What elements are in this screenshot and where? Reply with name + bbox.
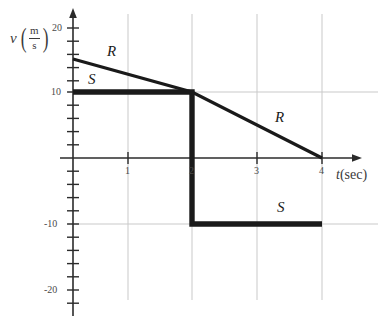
curve-label-R-right: R bbox=[275, 110, 284, 125]
y-tick-label-10: 10 bbox=[51, 87, 61, 97]
curve-label-R-left: R bbox=[107, 44, 116, 59]
x-tick-label-3: 3 bbox=[254, 166, 259, 176]
x-axis-unit: (sec) bbox=[340, 167, 367, 182]
x-axis-arrow bbox=[352, 154, 362, 162]
y-axis-unit-denominator: s bbox=[31, 40, 37, 52]
axis-lines bbox=[60, 14, 356, 316]
y-axis-close-paren: ) bbox=[42, 24, 48, 52]
curve-label-S-right: S bbox=[277, 200, 285, 215]
y-tick-label-neg10: -10 bbox=[44, 219, 57, 229]
chart-canvas: v ( m s ) 20 10 -10 -20 1 2 3 4 t(sec) R… bbox=[0, 0, 382, 318]
y-axis-variable: v bbox=[10, 31, 17, 46]
x-tick-label-1: 1 bbox=[125, 166, 130, 176]
velocity-time-plot bbox=[0, 0, 382, 318]
y-axis-unit-fraction: m s bbox=[28, 25, 41, 51]
curve-label-S-left: S bbox=[88, 72, 96, 87]
y-tick-label-20: 20 bbox=[52, 23, 62, 33]
y-axis-open-paren: ( bbox=[20, 24, 26, 52]
x-tick-label-4: 4 bbox=[319, 166, 324, 176]
y-axis-label: v ( m s ) bbox=[10, 24, 50, 52]
x-tick-label-2: 2 bbox=[189, 166, 194, 176]
y-axis-arrow bbox=[69, 8, 77, 18]
y-axis-unit-numerator: m bbox=[29, 25, 40, 37]
y-tick-label-neg20: -20 bbox=[44, 285, 57, 295]
x-axis-label: t(sec) bbox=[336, 168, 367, 182]
series-line-R bbox=[73, 59, 322, 158]
